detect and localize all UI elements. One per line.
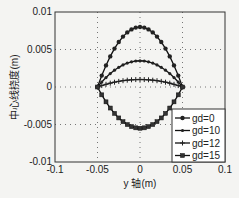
y-tick-label: 0.01 — [33, 6, 53, 17]
x-tick-label: 0.1 — [218, 164, 232, 175]
svg-text:gd=10: gd=10 — [192, 125, 221, 136]
svg-text:gd=0: gd=0 — [192, 113, 215, 124]
svg-text:gd=15: gd=15 — [192, 150, 221, 161]
legend: gd=0gd=10gd=12gd=15 — [172, 109, 225, 162]
x-axis-label: y 轴(m) — [124, 177, 157, 189]
deflection-chart: -0.1-0.0500.050.10.010.0050-0.005-0.01 y… — [0, 0, 239, 198]
y-tick-label: 0 — [46, 81, 52, 92]
y-tick-label: 0.005 — [27, 44, 52, 55]
y-axis-label: 中心线挠度(m) — [8, 55, 20, 120]
x-tick-label: 0 — [137, 164, 143, 175]
x-tick-label: 0.05 — [173, 164, 193, 175]
series-gd-10 — [96, 59, 184, 88]
x-tick-label: -0.05 — [86, 164, 109, 175]
svg-text:gd=12: gd=12 — [192, 138, 221, 149]
y-tick-label: -0.01 — [29, 156, 52, 167]
y-tick-label: -0.005 — [24, 119, 53, 130]
